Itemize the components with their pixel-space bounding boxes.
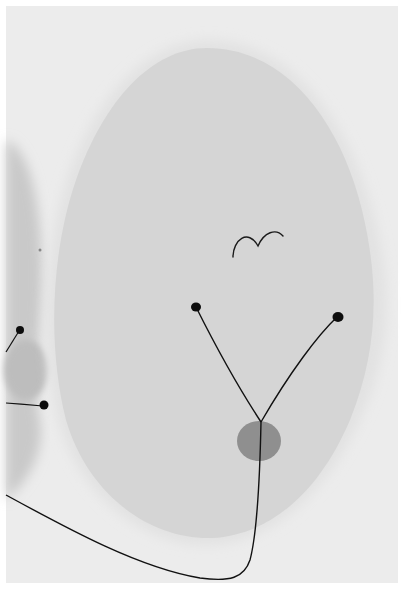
artwork-canvas <box>0 0 405 592</box>
left-edge-dot-lower <box>40 401 49 410</box>
speck <box>39 249 42 252</box>
gray-disc <box>237 421 281 461</box>
painting <box>0 0 405 592</box>
left-edge-dot-upper <box>16 326 24 334</box>
right-dot <box>333 312 344 322</box>
left-blot <box>4 340 48 400</box>
left-dot <box>191 303 201 312</box>
